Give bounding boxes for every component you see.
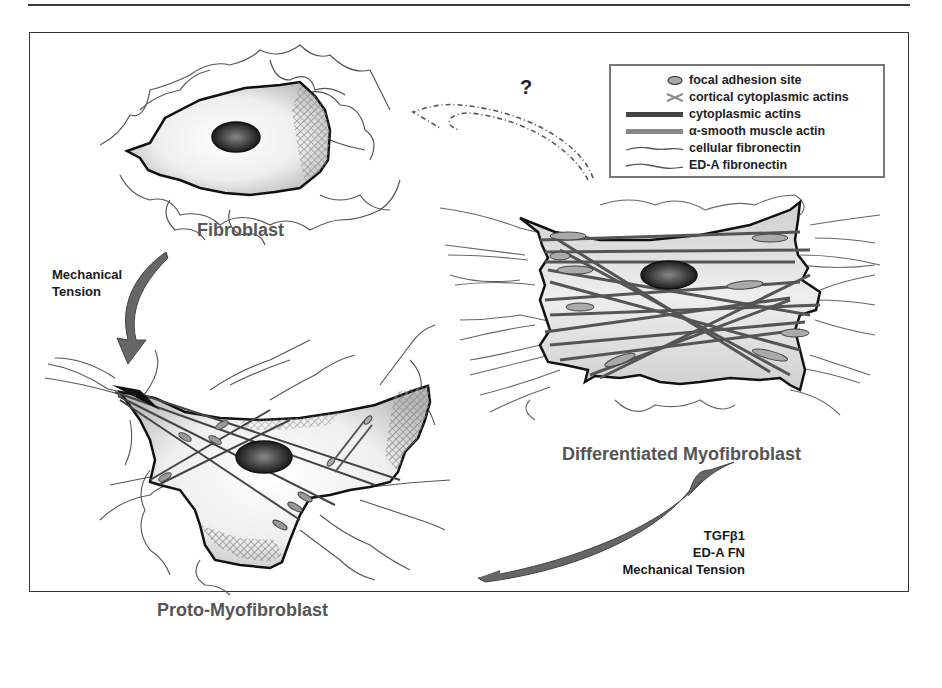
proto-to-differentiated-factors: TGFβ1 ED-A FN Mechanical Tension [600,527,745,578]
reversal-dashed-arrow-icon [413,105,593,180]
fibroblast-nucleus [212,122,260,152]
differentiated-myofibroblast-cell [440,195,880,420]
factor-tgfb1: TGFβ1 [600,527,745,544]
eda-fibronectin-line-icon [623,159,683,172]
fibroblast-cell [100,45,400,245]
cortical-actin-cross-icon [623,91,683,104]
factor-mechanical-tension: Mechanical Tension [600,561,745,578]
cytoplasmic-actin-bar-icon [623,108,683,121]
proto-myofibroblast-cell [45,325,450,595]
focal-adhesion-icon [623,74,683,87]
legend-label: ED-A fibronectin [689,157,787,174]
alpha-sma-bar-icon [623,125,683,138]
proto-nucleus [236,441,292,473]
legend-item-focal-adhesion: focal adhesion site [611,72,887,89]
mechanical-tension-arrow-icon [117,252,168,364]
fibroblast-label: Fibroblast [197,220,284,241]
legend-label: cytoplasmic actins [689,106,801,123]
legend-label: cellular fibronectin [689,140,801,157]
legend-label: α-smooth muscle actin [689,123,825,140]
legend-item-eda-fibronectin: ED-A fibronectin [611,157,887,174]
factor-eda-fn: ED-A FN [600,544,745,561]
legend-label: cortical cytoplasmic actins [689,89,849,106]
mechanical-tension-line1: Mechanical [52,266,122,283]
legend-item-cortical-actin: cortical cytoplasmic actins [611,89,887,106]
proto-myofibroblast-label: Proto-Myofibroblast [157,600,328,621]
differentiated-myofibroblast-label: Differentiated Myofibroblast [562,444,801,465]
legend-item-cytoplasmic-actin: cytoplasmic actins [611,106,887,123]
cellular-fibronectin-line-icon [623,142,683,155]
legend: focal adhesion site cortical cytoplasmic… [609,64,885,178]
legend-item-cellular-fibronectin: cellular fibronectin [611,140,887,157]
legend-item-alpha-sma: α-smooth muscle actin [611,123,887,140]
question-mark: ? [520,76,532,99]
mechanical-tension-line2: Tension [52,283,122,300]
mechanical-tension-label: Mechanical Tension [52,266,122,300]
myo-nucleus [641,261,697,289]
myo-membrane [520,202,820,390]
legend-label: focal adhesion site [689,72,802,89]
